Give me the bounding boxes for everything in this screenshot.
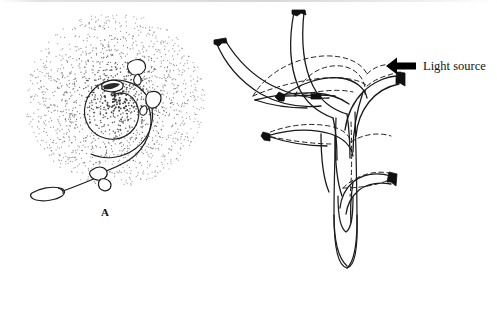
panel-b: B bbox=[195, 0, 405, 300]
leaf-mid-sheath-1 bbox=[321, 134, 329, 192]
panel-b-drawing bbox=[195, 0, 405, 300]
bent-leaf-positions-solid bbox=[216, 12, 399, 222]
panel-a-label: A bbox=[101, 206, 109, 218]
original-leaf-positions-dashed bbox=[253, 56, 401, 196]
light-source-label: Light source bbox=[423, 59, 486, 74]
leaf-upper-right-1 bbox=[345, 76, 399, 130]
figure-root: A bbox=[0, 0, 497, 320]
stipple-shading bbox=[26, 14, 205, 185]
leaf-center-short-2 bbox=[283, 95, 335, 96]
light-source-annotation: Light source bbox=[386, 57, 486, 75]
light-source-arrow-icon bbox=[386, 57, 416, 75]
leaf-tip-mid-left bbox=[261, 132, 270, 141]
leaf-tip-upper-left bbox=[214, 38, 227, 46]
leaf-mid-left-1 bbox=[267, 130, 353, 156]
leaf-upper-left-edge-2 bbox=[225, 40, 329, 98]
leaf-tip-center-short bbox=[275, 92, 285, 101]
leaf-lower-right-1 bbox=[340, 174, 391, 208]
leaf-tip-marks bbox=[214, 10, 405, 186]
leaf-tip-center-node bbox=[311, 94, 321, 99]
panel-a: A bbox=[0, 0, 215, 250]
leaf-upper-center-edge-1 bbox=[291, 12, 333, 118]
